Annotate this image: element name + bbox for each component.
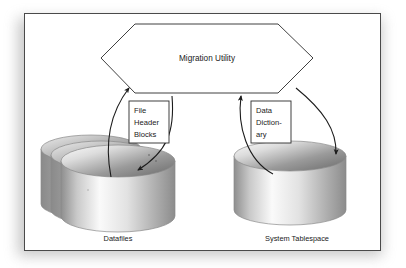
diagram-canvas: Datafiles System Tablespace Migration Ut… [0,0,406,268]
process-node-migration-utility[interactable]: Migration Utility [101,24,313,93]
annotation-data-dictionary[interactable]: Data Diction- ary [251,101,291,143]
annotation-line-header: Header [134,118,159,127]
store-system-tablespace[interactable]: System Tablespace [234,141,346,243]
store-caption-system-tablespace: System Tablespace [265,234,329,243]
process-node-label: Migration Utility [179,54,236,63]
system-tablespace-cylinder [234,141,346,225]
annotation-line-diction: Diction- [256,118,282,127]
annotation-line-ary: ary [256,130,267,139]
figure-frame: Datafiles System Tablespace Migration Ut… [24,13,381,251]
store-caption-datafiles: Datafiles [104,234,133,243]
migration-utility-diagram: Datafiles System Tablespace Migration Ut… [25,14,381,251]
datafile-cylinder-front [61,145,175,232]
annotation-file-header-blocks[interactable]: File Header Blocks [129,101,169,143]
annotation-line-blocks: Blocks [134,130,157,139]
annotation-line-data: Data [256,106,273,115]
annotation-line-file: File [134,106,146,115]
